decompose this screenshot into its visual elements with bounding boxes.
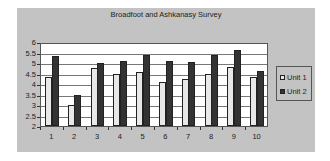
x-tick-label: 3	[87, 132, 107, 141]
x-tick-mark	[222, 127, 223, 130]
legend-item-unit-2: Unit 2	[280, 87, 307, 96]
x-tick-label: 5	[133, 132, 153, 141]
y-tick-mark	[37, 54, 40, 55]
legend-label: Unit 2	[287, 87, 307, 96]
y-tick-mark	[37, 117, 40, 118]
y-tick-label: 5.5	[18, 50, 36, 58]
legend-item-unit-1: Unit 1	[280, 73, 307, 82]
y-tick-mark	[37, 75, 40, 76]
y-tick-label: 3	[18, 102, 36, 110]
legend: Unit 1 Unit 2	[276, 66, 312, 101]
x-tick-label: 9	[224, 132, 244, 141]
bar-unit-2-7	[188, 62, 195, 126]
bar-unit-2-9	[234, 50, 241, 126]
bar-unit-2-2	[74, 95, 81, 127]
x-tick-mark	[131, 127, 132, 130]
bar-unit-2-1	[52, 56, 59, 126]
x-tick-mark	[177, 127, 178, 130]
x-tick-mark	[63, 127, 64, 130]
bar-unit-2-10	[257, 71, 264, 126]
x-tick-mark	[108, 127, 109, 130]
bar-unit-2-8	[211, 55, 218, 126]
chart-title: Broadfoot and Ashkanasy Survey	[17, 10, 315, 19]
bar-unit-2-3	[97, 63, 104, 126]
x-tick-label: 2	[64, 132, 84, 141]
x-tick-mark	[154, 127, 155, 130]
plot-area	[40, 43, 268, 127]
x-tick-mark	[245, 127, 246, 130]
y-tick-mark	[37, 96, 40, 97]
y-tick-label: 5	[18, 60, 36, 68]
y-tick-mark	[37, 85, 40, 86]
x-tick-mark	[200, 127, 201, 130]
x-tick-label: 6	[155, 132, 175, 141]
x-tick-label: 4	[110, 132, 130, 141]
legend-label: Unit 1	[287, 73, 307, 82]
y-tick-mark	[37, 64, 40, 65]
y-tick-mark	[37, 43, 40, 44]
bar-unit-2-5	[143, 55, 150, 126]
y-tick-label: 2	[18, 123, 36, 131]
x-tick-label: 1	[41, 132, 61, 141]
x-tick-mark	[86, 127, 87, 130]
x-tick-label: 7	[178, 132, 198, 141]
legend-swatch-unit-1	[280, 75, 285, 80]
x-tick-label: 10	[247, 132, 267, 141]
y-tick-mark	[37, 106, 40, 107]
y-tick-label: 3.5	[18, 92, 36, 100]
x-tick-label: 8	[201, 132, 221, 141]
bar-unit-2-6	[166, 61, 173, 126]
y-tick-label: 6	[18, 39, 36, 47]
y-tick-label: 2.5	[18, 113, 36, 121]
y-tick-label: 4.5	[18, 71, 36, 79]
bar-unit-2-4	[120, 61, 127, 126]
y-tick-label: 4	[18, 81, 36, 89]
legend-swatch-unit-2	[280, 89, 285, 94]
x-tick-mark	[40, 127, 41, 130]
